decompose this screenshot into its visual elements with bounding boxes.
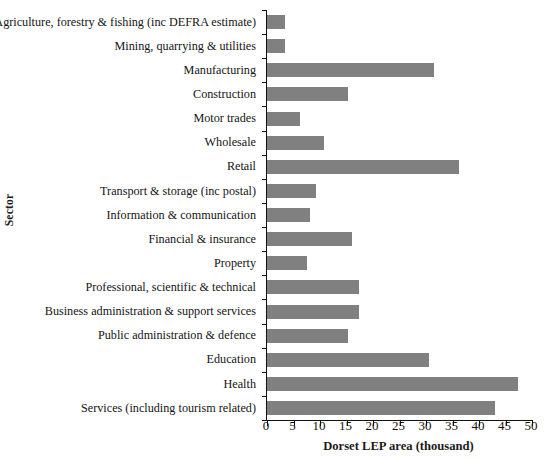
bar [267,39,285,53]
category-label: Construction [14,82,262,106]
bar-row [267,34,532,58]
x-axis-tick-label: 35 [445,418,458,434]
bar [267,15,285,29]
y-axis-tick [262,251,267,252]
bar [267,401,495,415]
category-label: Motor trades [14,107,262,131]
y-axis-tick [262,58,267,59]
x-axis-tick-label: 0 [263,418,270,434]
bar [267,377,518,391]
bar [267,208,310,222]
x-axis-tick-label: 50 [525,418,538,434]
bar-row [267,203,532,227]
x-axis-tick-label: 20 [366,418,379,434]
bar-row [267,10,532,34]
x-axis-tick-label: 15 [339,418,352,434]
category-axis-labels: Agriculture, forestry & fishing (inc DEF… [14,10,262,420]
bar [267,329,348,343]
x-axis-tick-label: 10 [313,418,326,434]
y-axis-tick [262,34,267,35]
bar-row [267,179,532,203]
category-label: Public administration & defence [14,324,262,348]
bar-row [267,82,532,106]
bar-row [267,251,532,275]
bar-row [267,155,532,179]
y-axis-tick [262,324,267,325]
x-axis-tick-label: 30 [419,418,432,434]
y-axis-tick [262,275,267,276]
x-axis-tick-label: 45 [498,418,511,434]
category-label: Business administration & support servic… [14,300,262,324]
category-label: Retail [14,155,262,179]
category-label: Health [14,372,262,396]
category-label: Financial & insurance [14,227,262,251]
category-label: Manufacturing [14,58,262,82]
plot-area [266,10,532,421]
y-axis-tick [262,179,267,180]
y-axis-tick [262,155,267,156]
category-label: Transport & storage (inc postal) [14,179,262,203]
category-label: Mining, quarrying & utilities [14,34,262,58]
y-axis-tick [262,106,267,107]
category-label: Wholesale [14,131,262,155]
bar [267,112,300,126]
y-axis-tick [262,396,267,397]
bar-row [267,396,532,420]
y-axis-tick [262,82,267,83]
bar-row [267,227,532,251]
category-label: Agriculture, forestry & fishing (inc DEF… [14,10,262,34]
x-axis-title: Dorset LEP area (thousand) [266,439,531,454]
bar-chart: Sector Agriculture, forestry & fishing (… [0,0,544,460]
bar [267,280,359,294]
bar [267,87,348,101]
bar [267,232,352,246]
bar [267,63,434,77]
bar [267,184,316,198]
category-label: Services (including tourism related) [14,396,262,420]
x-axis-tick-label: 5 [289,418,296,434]
category-label: Education [14,348,262,372]
bar-row [267,348,532,372]
y-axis-tick [262,227,267,228]
bar [267,305,359,319]
y-axis-tick [262,299,267,300]
bar [267,136,324,150]
bar-row [267,107,532,131]
y-axis-tick [262,131,267,132]
bar-series [267,10,532,420]
y-axis-tick [262,203,267,204]
bar [267,353,429,367]
bar-row [267,372,532,396]
x-axis-tick-label: 40 [472,418,485,434]
bar [267,160,459,174]
bar-row [267,300,532,324]
category-label: Property [14,251,262,275]
bar-row [267,275,532,299]
y-axis-tick [262,372,267,373]
bar [267,256,307,270]
bar-row [267,131,532,155]
category-label: Professional, scientific & technical [14,275,262,299]
x-axis-tick-label: 25 [392,418,405,434]
y-axis-tick [262,348,267,349]
y-axis-tick [262,10,267,11]
category-label: Information & communication [14,203,262,227]
bar-row [267,324,532,348]
bar-row [267,58,532,82]
